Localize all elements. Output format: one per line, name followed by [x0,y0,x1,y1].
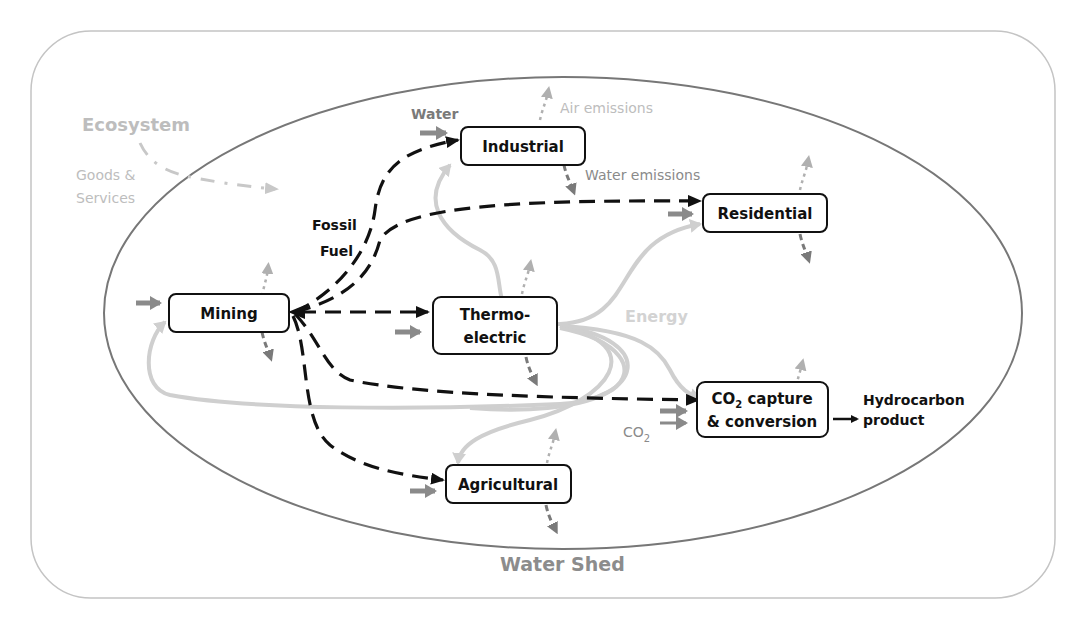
hydrocarbon-label-1: Hydrocarbon [863,392,965,408]
node-thermoelectric-label-2: electric [464,329,527,347]
node-mining[interactable]: Mining [169,294,289,332]
node-agricultural[interactable]: Agricultural [446,465,571,503]
goods-services-label-2: Services [76,190,135,206]
fossil-fuel-label-1: Fossil [312,217,357,233]
water-label: Water [411,106,459,122]
node-thermoelectric[interactable]: Thermo- electric [433,297,557,354]
water-energy-diagram: Ecosystem Goods & Services Fossil Fuel E… [0,0,1079,621]
water-emissions-label: Water emissions [585,167,700,183]
node-residential-label: Residential [718,205,813,223]
co2-input-label: CO2 [623,424,650,444]
fossil-fuel-label-2: Fuel [320,243,353,259]
hydrocarbon-label-2: product [863,412,925,428]
node-co2-capture-label-2: & conversion [707,413,818,431]
node-mining-label: Mining [200,305,257,323]
node-industrial-label: Industrial [482,138,564,156]
node-co2-capture[interactable]: CO2 capture & conversion [697,382,828,437]
watershed-label: Water Shed [500,553,625,575]
node-residential[interactable]: Residential [703,194,827,232]
ecosystem-label: Ecosystem [82,114,190,135]
goods-services-label-1: Goods & [76,167,136,183]
air-emissions-label: Air emissions [560,100,653,116]
node-industrial[interactable]: Industrial [461,127,585,165]
node-agricultural-label: Agricultural [458,476,558,494]
energy-label: Energy [625,307,689,326]
node-thermoelectric-label-1: Thermo- [460,306,531,324]
goods-services-arrow [140,143,275,189]
node-co2-capture-label-1: CO2 capture [711,390,812,410]
